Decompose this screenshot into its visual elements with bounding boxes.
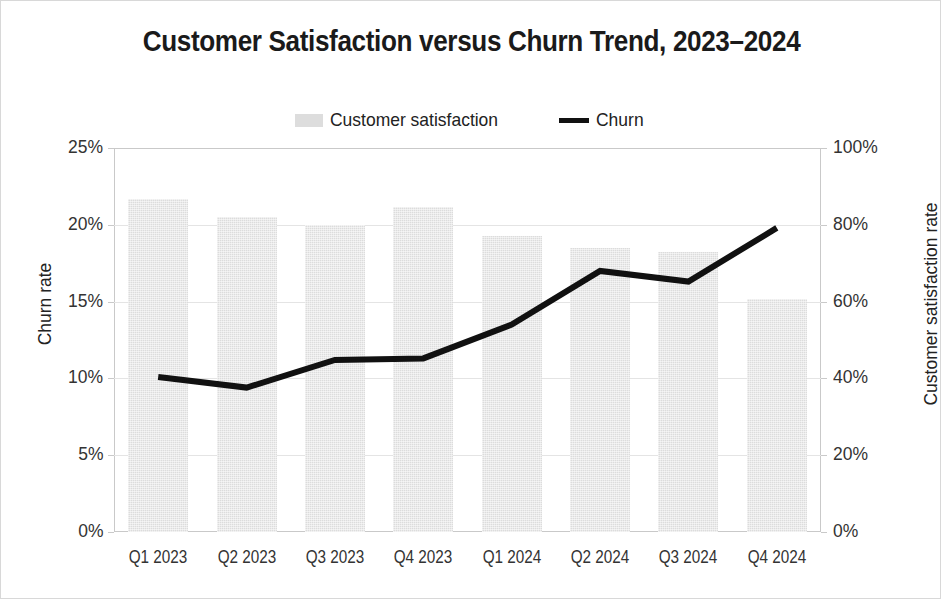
legend-line-icon bbox=[559, 118, 589, 123]
tick-mark bbox=[108, 302, 114, 303]
bar bbox=[305, 225, 365, 532]
x-axis-tick-label: Q2 2024 bbox=[553, 547, 647, 568]
x-axis-tick-label: Q1 2024 bbox=[465, 547, 559, 568]
x-axis-ticks: Q1 2023Q2 2023Q3 2023Q4 2023Q1 2024Q2 20… bbox=[114, 547, 821, 577]
plot-area bbox=[114, 148, 821, 532]
legend-swatch-icon bbox=[295, 114, 323, 127]
x-axis-tick-label: Q3 2024 bbox=[642, 547, 736, 568]
x-axis-tick-label: Q4 2023 bbox=[377, 547, 471, 568]
tick-mark bbox=[821, 225, 827, 226]
tick-mark bbox=[108, 378, 114, 379]
bar bbox=[217, 217, 277, 532]
tick-mark bbox=[108, 225, 114, 226]
y-axis-title-right: Customer satisfaction rate bbox=[920, 175, 941, 433]
tick-mark bbox=[821, 455, 827, 456]
y-axis-left-tick-label: 20% bbox=[68, 213, 103, 235]
legend-item-label: Customer satisfaction bbox=[330, 109, 498, 131]
y-axis-left-tick-label: 0% bbox=[78, 520, 103, 542]
legend-item-churn[interactable]: Churn bbox=[559, 109, 648, 131]
tick-mark bbox=[108, 455, 114, 456]
x-axis-tick-label: Q4 2024 bbox=[730, 547, 824, 568]
tick-mark bbox=[821, 532, 827, 533]
x-axis-tick-label: Q3 2023 bbox=[288, 547, 382, 568]
y-axis-left-tick-label: 15% bbox=[68, 290, 103, 312]
y-axis-right-tick-label: 20% bbox=[833, 443, 868, 465]
y-axis-left-tick-label: 5% bbox=[78, 443, 103, 465]
bar bbox=[658, 252, 718, 532]
chart-legend: Customer satisfaction Churn bbox=[1, 109, 941, 131]
x-axis-tick-label: Q2 2023 bbox=[200, 547, 294, 568]
y-axis-left-tick-label: 10% bbox=[68, 366, 103, 388]
tick-mark bbox=[108, 148, 114, 149]
legend-item-label: Churn bbox=[596, 109, 644, 131]
x-axis-tick-label: Q1 2023 bbox=[111, 547, 205, 568]
bar bbox=[747, 299, 807, 532]
y-axis-right-tick-label: 40% bbox=[833, 366, 868, 388]
bar bbox=[570, 248, 630, 532]
y-axis-left-tick-label: 25% bbox=[68, 136, 103, 158]
y-axis-left-ticks: 0%5%10%15%20%25% bbox=[29, 148, 103, 532]
bar bbox=[128, 199, 188, 532]
y-axis-right-tick-label: 60% bbox=[833, 290, 868, 312]
tick-mark bbox=[108, 532, 114, 533]
tick-mark bbox=[821, 148, 827, 149]
axis-line-left bbox=[114, 148, 115, 532]
bar bbox=[482, 236, 542, 532]
y-axis-right-ticks: 0%20%40%60%80%100% bbox=[833, 148, 911, 532]
tick-mark bbox=[821, 378, 827, 379]
y-axis-right-tick-label: 80% bbox=[833, 213, 868, 235]
y-axis-right-tick-label: 100% bbox=[833, 136, 878, 158]
bar bbox=[393, 207, 453, 532]
legend-item-customer-satisfaction[interactable]: Customer satisfaction bbox=[295, 109, 513, 131]
chart-figure: Customer Satisfaction versus Churn Trend… bbox=[0, 0, 941, 599]
chart-title: Customer Satisfaction versus Churn Trend… bbox=[48, 25, 895, 58]
y-axis-right-tick-label: 0% bbox=[833, 520, 858, 542]
axis-line-right bbox=[820, 148, 821, 532]
axis-line-top bbox=[114, 148, 821, 149]
tick-mark bbox=[821, 302, 827, 303]
